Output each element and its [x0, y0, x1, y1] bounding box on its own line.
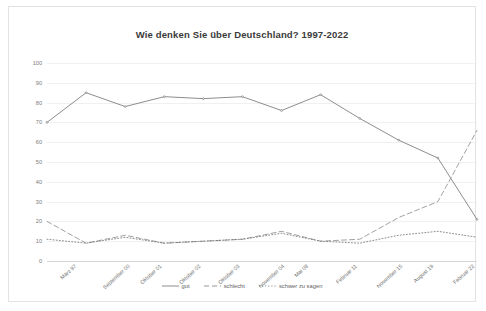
- x-axis-tick-label: August 19: [412, 263, 434, 284]
- data-point: [476, 219, 478, 221]
- x-axis-tick-label: März 97: [59, 263, 77, 280]
- y-axis-tick-label: 10: [36, 238, 42, 244]
- series-line-gut: [47, 93, 477, 220]
- y-axis-tick-label: 20: [36, 218, 42, 224]
- data-point: [242, 96, 244, 98]
- data-point: [85, 92, 87, 94]
- y-axis-tick-label: 80: [36, 100, 42, 106]
- x-axis-tick-label: Februar 11: [334, 263, 357, 285]
- legend-item[interactable]: schlecht: [204, 283, 245, 289]
- legend-item[interactable]: schwer zu sagen: [259, 283, 323, 289]
- x-axis-tick-label: Oktober 03: [217, 263, 241, 285]
- x-axis-tick-label: Oktober 02: [178, 263, 202, 285]
- chart-legend: gutschlechtschwer zu sagen: [9, 283, 475, 289]
- data-point: [398, 139, 400, 141]
- x-axis-tick-label: Mai 08: [293, 263, 309, 278]
- legend-swatch-schlecht-icon: [204, 283, 221, 289]
- y-axis-tick-label: 30: [36, 199, 42, 205]
- x-axis-tick-label: Oktober 01: [139, 263, 163, 285]
- data-point: [124, 106, 126, 108]
- data-point: [359, 118, 361, 120]
- y-axis-tick-label: 60: [36, 139, 42, 145]
- data-point: [320, 94, 322, 96]
- series-line-schlecht: [47, 130, 477, 243]
- legend-label: gut: [182, 283, 190, 289]
- legend-label: schlecht: [224, 283, 245, 289]
- legend-item[interactable]: gut: [162, 283, 190, 289]
- y-axis-tick-label: 50: [36, 159, 42, 165]
- chart-container: Wie denken Sie über Deutschland? 1997-20…: [8, 6, 476, 302]
- legend-swatch-schwer-zu-sagen-icon: [259, 283, 276, 289]
- y-axis-tick-label: 40: [36, 179, 42, 185]
- legend-label: schwer zu sagen: [279, 283, 323, 289]
- x-axis-tick-label: Februar 22: [452, 263, 476, 285]
- y-axis-tick-label: 90: [36, 80, 42, 86]
- series-line-schwer-zu-sagen: [47, 231, 477, 243]
- data-point: [202, 98, 204, 100]
- data-point: [437, 157, 439, 159]
- gridline: [47, 261, 477, 262]
- legend-swatch-gut-icon: [162, 283, 179, 289]
- y-axis-tick-label: 100: [33, 60, 42, 66]
- data-point: [163, 96, 165, 98]
- y-axis-tick-label: 70: [36, 119, 42, 125]
- plot-area: 0102030405060708090100: [47, 63, 477, 261]
- series-lines: [47, 63, 477, 261]
- data-point: [281, 110, 283, 112]
- chart-title: Wie denken Sie über Deutschland? 1997-20…: [9, 29, 475, 40]
- y-axis-tick-label: 0: [39, 258, 42, 264]
- data-point: [46, 122, 48, 124]
